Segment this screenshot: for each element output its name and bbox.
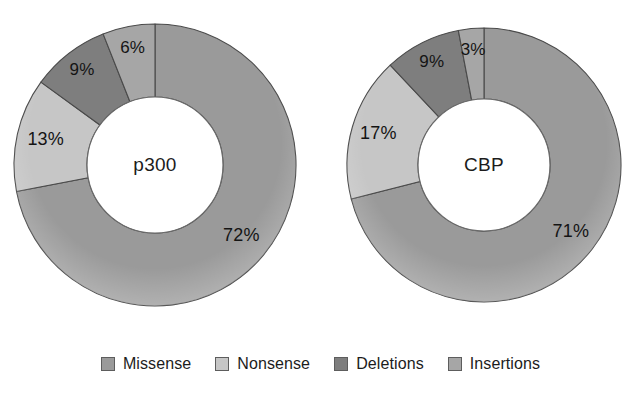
legend-label-deletions: Deletions xyxy=(356,355,424,373)
legend-item-missense: Missense xyxy=(101,355,191,373)
donut-center-label-p300: p300 xyxy=(133,154,176,175)
donut-value-label-insertions: 6% xyxy=(120,38,145,57)
donut-value-label-nonsense: 13% xyxy=(27,129,64,149)
chart-legend: Missense Nonsense Deletions Insertions xyxy=(0,344,641,384)
donut-svg-p300: p300 72%13%9%6% xyxy=(0,0,320,340)
legend-swatch-nonsense-icon xyxy=(215,357,229,371)
legend-label-missense: Missense xyxy=(123,355,191,373)
legend-item-nonsense: Nonsense xyxy=(215,355,310,373)
legend-label-insertions: Insertions xyxy=(470,355,540,373)
donut-value-label-nonsense: 17% xyxy=(360,123,397,143)
donut-value-label-missense: 72% xyxy=(223,225,260,245)
figure-root: p300 72%13%9%6% CBP 71%17%9%3% xyxy=(0,0,641,397)
legend-item-insertions: Insertions xyxy=(448,355,540,373)
legend-swatch-missense-icon xyxy=(101,357,115,371)
legend-swatch-insertions-icon xyxy=(448,357,462,371)
legend-swatch-deletions-icon xyxy=(334,357,348,371)
charts-row: p300 72%13%9%6% CBP 71%17%9%3% xyxy=(0,0,641,340)
legend-label-nonsense: Nonsense xyxy=(237,355,310,373)
donut-center-label-cbp: CBP xyxy=(464,154,504,175)
donut-chart-p300: p300 72%13%9%6% xyxy=(0,0,320,340)
donut-value-label-deletions: 9% xyxy=(419,52,444,71)
donut-value-label-deletions: 9% xyxy=(70,60,95,79)
donut-chart-cbp: CBP 71%17%9%3% xyxy=(320,0,640,340)
donut-value-label-missense: 71% xyxy=(553,221,590,241)
legend-item-deletions: Deletions xyxy=(334,355,424,373)
donut-svg-cbp: CBP 71%17%9%3% xyxy=(320,0,640,340)
donut-value-label-insertions: 3% xyxy=(461,40,486,59)
